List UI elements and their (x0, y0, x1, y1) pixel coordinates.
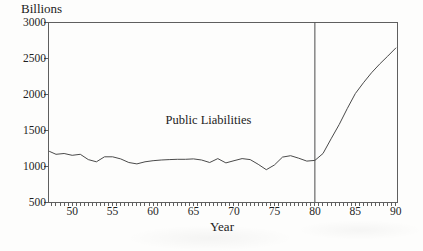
y-tick-label: 3000 (2, 16, 46, 29)
x-tick-label: 75 (259, 205, 289, 218)
x-tick-label: 70 (219, 205, 249, 218)
line-chart-figure: Billions Public Liabilities Year 5001000… (0, 0, 423, 251)
y-axis-title: Billions (21, 1, 62, 17)
series-annotation-label: Public Liabilities (148, 113, 269, 128)
y-tick-label: 500 (2, 196, 46, 209)
x-tick-label: 55 (98, 205, 128, 218)
series-line-public-liabilities (50, 48, 396, 170)
x-tick-label: 90 (381, 205, 411, 218)
x-tick-label: 65 (179, 205, 209, 218)
x-axis-title: Year (192, 219, 252, 235)
x-tick-label: 60 (138, 205, 168, 218)
x-tick-label: 85 (340, 205, 370, 218)
y-tick-label: 1000 (2, 160, 46, 173)
y-tick-label: 2000 (2, 88, 46, 101)
x-tick-label: 80 (300, 205, 330, 218)
y-tick-label: 2500 (2, 52, 46, 65)
x-tick-label: 50 (57, 205, 87, 218)
y-tick-label: 1500 (2, 124, 46, 137)
